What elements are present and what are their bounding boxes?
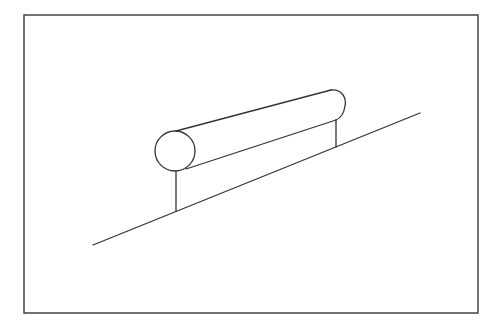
slope-ground-line <box>93 113 420 245</box>
pipe-bottom-edge <box>186 120 336 169</box>
pipe-top-edge <box>176 90 331 131</box>
pipe-far-end-arc <box>331 90 345 120</box>
pipe-end-circle <box>155 131 195 171</box>
diagram-frame <box>24 15 478 313</box>
pipe-on-slope-diagram <box>0 0 491 328</box>
